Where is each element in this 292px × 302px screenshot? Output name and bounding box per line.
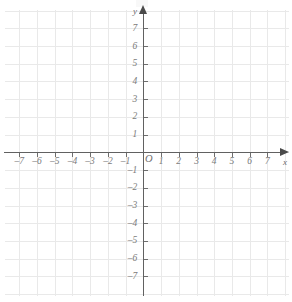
- y-axis-tick-label: 4: [121, 77, 137, 87]
- x-axis-tick-label: 2: [171, 157, 187, 167]
- y-axis-tick-label: 5: [121, 59, 137, 69]
- y-axis-label: y: [133, 6, 137, 16]
- y-axis-tick-label: 7: [121, 24, 137, 34]
- origin-label: O: [145, 153, 153, 164]
- y-axis-tick-label: 1: [121, 130, 137, 140]
- y-axis-tick-label: –1: [121, 166, 137, 176]
- y-axis-tick-label: –6: [121, 254, 137, 264]
- x-axis-tick-label: –3: [82, 157, 98, 167]
- y-axis-tick-label: –7: [121, 272, 137, 282]
- x-axis-tick-label: –6: [29, 157, 45, 167]
- y-axis-tick-label: 6: [121, 42, 137, 52]
- x-axis-label: x: [283, 157, 287, 167]
- y-axis-tick-label: –4: [121, 219, 137, 229]
- y-axis-tick-label: –2: [121, 183, 137, 193]
- x-axis-tick-label: –7: [11, 157, 27, 167]
- y-axis-tick-label: –5: [121, 236, 137, 246]
- x-axis-tick-label: 5: [224, 157, 240, 167]
- coordinate-plane: –7–6–5–4–3–2–11234567–7–6–5–4–3–2–112345…: [0, 0, 292, 302]
- x-axis-tick-label: 7: [259, 157, 275, 167]
- x-axis-tick-label: –4: [64, 157, 80, 167]
- x-axis-tick-label: –2: [100, 157, 116, 167]
- x-axis-tick-label: 4: [206, 157, 222, 167]
- x-axis-tick-label: 3: [189, 157, 205, 167]
- x-axis-tick-label: –5: [47, 157, 63, 167]
- axis-tick-labels: –7–6–5–4–3–2–11234567–7–6–5–4–3–2–112345…: [0, 0, 292, 302]
- x-axis-tick-label: 1: [153, 157, 169, 167]
- y-axis-tick-label: –3: [121, 201, 137, 211]
- x-axis-tick-label: 6: [242, 157, 258, 167]
- y-axis-tick-label: 3: [121, 95, 137, 105]
- y-axis-tick-label: 2: [121, 112, 137, 122]
